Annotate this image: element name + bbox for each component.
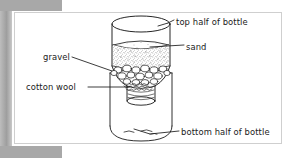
label-cotton-wool: cotton wool: [26, 82, 76, 92]
label-bottom-half-of-bottle: bottom half of bottle: [181, 127, 270, 137]
label-gravel: gravel: [43, 52, 70, 62]
label-sand: sand: [186, 42, 207, 52]
label-top-half-of-bottle: top half of bottle: [176, 17, 248, 27]
diagram-screenshot: top half of bottle sand gravel cotton wo…: [0, 0, 285, 158]
